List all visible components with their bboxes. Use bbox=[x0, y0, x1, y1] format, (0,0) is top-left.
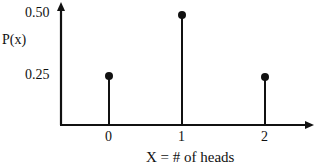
stem-dot-x0 bbox=[105, 72, 113, 80]
chart-svg bbox=[0, 0, 319, 167]
y-tick-label-025: 0.25 bbox=[25, 68, 50, 82]
x-tick-label-2: 2 bbox=[261, 130, 268, 144]
x-tick-label-0: 0 bbox=[105, 130, 112, 144]
x-axis-arrow-icon bbox=[305, 121, 314, 129]
y-axis-arrow-icon bbox=[57, 2, 65, 11]
stem-dot-x2 bbox=[261, 73, 269, 81]
y-axis-label: P(x) bbox=[2, 33, 26, 47]
y-tick-label-050: 0.50 bbox=[25, 6, 50, 20]
stems bbox=[105, 11, 269, 125]
stem-dot-x1 bbox=[178, 11, 186, 19]
x-tick-label-1: 1 bbox=[178, 130, 185, 144]
x-axis-label: X = # of heads bbox=[146, 150, 234, 165]
